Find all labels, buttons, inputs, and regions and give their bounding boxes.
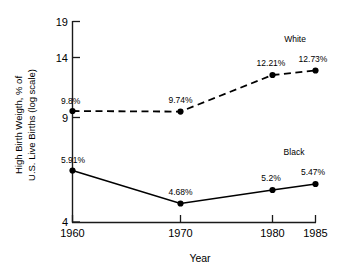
series-white-marker-1980 [269,72,275,78]
series-white-label-1980: 12.21% [257,58,286,68]
series-black-marker-1970 [177,200,183,206]
series-white-label-1960: 9.8% [61,96,81,106]
series-white-marker-1970 [177,109,183,115]
series-black-marker-1960 [69,167,75,173]
y-tick-label-9: 9 [62,112,68,124]
series-black-marker-1985 [312,181,318,187]
y-tick-label-14: 14 [56,52,68,64]
series-white-marker-1960 [69,108,75,114]
x-tick-label-1970: 1970 [168,227,192,239]
series-white-name: White [284,34,306,44]
series-black-label-1970: 4.68% [168,187,193,197]
series-black-name: Black [284,147,306,157]
x-tick-label-1980: 1980 [260,227,284,239]
y-axis-title-line1: High Birth Weigth, % of [13,76,24,174]
x-tick-label-1985: 1985 [303,227,327,239]
series-black [69,167,318,206]
series-white-label-1985: 12.73% [299,54,328,64]
y-tick-label-19: 19 [56,16,68,28]
x-tick-label-1960: 1960 [60,227,84,239]
y-axis [73,21,81,223]
y-axis-title-line2: U.S. Live Births (log scale) [26,69,37,181]
chart-figure: 19 14 9 4 1960 1970 1980 1985 9.8% 9.74%… [0,0,344,273]
series-black-marker-1980 [269,187,275,193]
series-black-label-1985: 5.47% [301,167,326,177]
series-black-label-1980: 5.2% [261,173,281,183]
series-white-line [73,71,316,112]
series-white-label-1970: 9.74% [168,95,193,105]
series-black-label-1960: 5.91% [61,155,86,165]
chart-plot-area: 19 14 9 4 1960 1970 1980 1985 9.8% 9.74%… [0,0,344,273]
series-white-marker-1985 [312,67,318,73]
series-white [69,67,318,114]
x-axis [72,215,316,223]
x-axis-title: Year [189,252,211,264]
y-axis-title: High Birth Weigth, % of U.S. Live Births… [13,69,37,181]
